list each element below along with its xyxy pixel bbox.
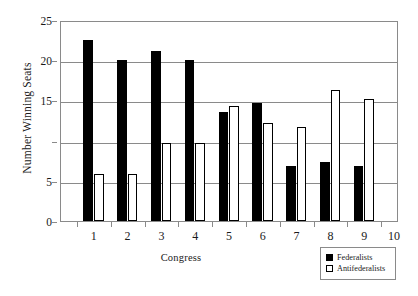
x-tick-mark-5 xyxy=(212,222,213,227)
bar-antifederalists-congress-9 xyxy=(364,99,374,221)
x-tick-mark-6 xyxy=(246,222,247,227)
y-tick-mark-10 xyxy=(52,142,57,143)
x-tick-label-1: 1 xyxy=(91,229,97,244)
x-tick-mark-1 xyxy=(77,222,78,227)
x-tick-label-6: 6 xyxy=(260,229,266,244)
bar-federalists-congress-2 xyxy=(117,60,127,221)
x-tick-mark-7 xyxy=(280,222,281,227)
y-tick-label-15: 15 xyxy=(41,95,53,107)
x-tick-mark-3 xyxy=(145,222,146,227)
bar-federalists-congress-1 xyxy=(83,40,93,221)
x-tick-mark-9 xyxy=(347,222,348,227)
x-tick-label-7: 7 xyxy=(294,229,300,244)
bar-series-container xyxy=(61,22,397,221)
y-axis-tick-labels: 05152025 xyxy=(0,21,56,222)
y-tick-label-20: 20 xyxy=(41,55,53,67)
bar-chart-figure: Number Winning Seats 05152025 1234567891… xyxy=(0,0,418,296)
legend-label-federalists: Federalists xyxy=(337,253,372,262)
bar-antifederalists-congress-4 xyxy=(195,143,205,221)
legend-item-antifederalists: Antifederalists xyxy=(326,264,390,273)
x-tick-mark-8 xyxy=(314,222,315,227)
x-tick-mark-10 xyxy=(381,222,382,227)
x-tick-mark-2 xyxy=(111,222,112,227)
bar-federalists-congress-3 xyxy=(151,51,161,221)
x-tick-label-2: 2 xyxy=(125,229,131,244)
bar-antifederalists-congress-5 xyxy=(229,106,239,221)
x-tick-label-8: 8 xyxy=(327,229,333,244)
legend-item-federalists: Federalists xyxy=(326,253,390,262)
x-tick-label-10: 10 xyxy=(388,229,400,244)
legend-swatch-federalists-icon xyxy=(326,254,333,261)
y-tick-mark-25 xyxy=(52,21,57,22)
bar-federalists-congress-8 xyxy=(320,162,330,221)
x-tick-mark-4 xyxy=(178,222,179,227)
x-tick-label-3: 3 xyxy=(158,229,164,244)
bar-antifederalists-congress-6 xyxy=(263,123,273,221)
legend-swatch-antifederalists-icon xyxy=(326,265,333,272)
y-tick-mark-15 xyxy=(52,101,57,102)
chart-legend: Federalists Antifederalists xyxy=(320,247,396,280)
bar-antifederalists-congress-8 xyxy=(331,90,341,221)
bar-federalists-congress-9 xyxy=(354,166,364,221)
legend-label-antifederalists: Antifederalists xyxy=(337,264,385,273)
plot-area xyxy=(60,21,398,222)
x-axis-title-text: Congress xyxy=(161,252,202,263)
x-tick-label-4: 4 xyxy=(192,229,198,244)
bar-antifederalists-congress-3 xyxy=(162,143,172,221)
bar-federalists-congress-7 xyxy=(286,166,296,221)
bar-federalists-congress-6 xyxy=(252,103,262,221)
bar-antifederalists-congress-7 xyxy=(297,127,307,221)
bar-antifederalists-congress-1 xyxy=(94,174,104,221)
bar-federalists-congress-4 xyxy=(185,60,195,221)
bar-antifederalists-congress-2 xyxy=(128,174,138,221)
y-tick-mark-5 xyxy=(52,182,57,183)
y-tick-mark-0 xyxy=(52,222,57,223)
y-tick-mark-20 xyxy=(52,61,57,62)
x-axis-tick-labels: 12345678910 xyxy=(60,222,398,248)
x-tick-label-9: 9 xyxy=(361,229,367,244)
y-tick-label-25: 25 xyxy=(41,15,53,27)
bar-federalists-congress-5 xyxy=(219,112,229,221)
x-tick-label-5: 5 xyxy=(226,229,232,244)
